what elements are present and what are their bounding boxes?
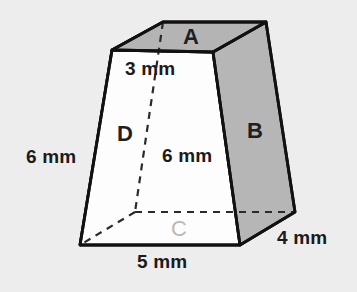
face-label-d: D	[117, 123, 133, 145]
dimension-label-middle-height: 6 mm	[162, 146, 212, 165]
dimension-label-left-height: 6 mm	[26, 147, 76, 166]
frustum-figure: A B D C 3 mm 6 mm 6 mm 5 mm 4 mm	[0, 0, 357, 292]
edge-top-front	[112, 50, 213, 52]
dimension-label-top-depth: 3 mm	[125, 59, 175, 78]
face-label-b: B	[247, 120, 263, 142]
dimension-label-base-width: 5 mm	[137, 252, 187, 271]
dimension-label-base-depth: 4 mm	[277, 228, 327, 247]
face-label-a: A	[183, 26, 199, 48]
face-label-c: C	[171, 218, 187, 240]
